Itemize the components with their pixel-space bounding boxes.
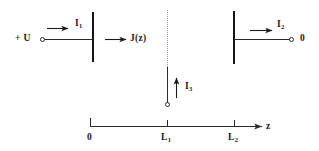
current-1-subscript: 1 [79,22,83,29]
ground-label: 0 [300,34,305,44]
tick-l1-subscript: 1 [168,136,172,143]
arrow-layer [0,0,319,151]
current-2-label: I2 [277,20,285,30]
voltage-source-label: + U [15,34,31,44]
tick-0-symbol: 0 [87,132,92,142]
circuit-diagram: + U I1 J(z) I2 0 I3 z 0 L1 L2 [0,0,319,151]
axis-tick-label-l2: L2 [228,133,238,143]
current-3-label: I3 [185,82,193,92]
axis-tick-label-0: 0 [87,133,92,143]
axis-tick-label-l1: L1 [161,133,171,143]
tick-l1-symbol: L [161,132,168,142]
current-2-subscript: 2 [281,23,285,30]
current-density-label: J(z) [130,34,147,44]
tick-l2-symbol: L [228,132,235,142]
axis-name-label: z [266,122,271,132]
current-3-subscript: 3 [189,85,193,92]
current-1-label: I1 [75,19,83,29]
tick-l2-subscript: 2 [235,136,239,143]
